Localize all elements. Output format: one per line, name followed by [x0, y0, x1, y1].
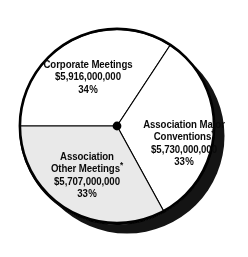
- slice-label-percent: 33%: [134, 155, 233, 167]
- slice-label-percent: 34%: [29, 83, 147, 95]
- slice-label-name-line1: Association: [33, 150, 142, 162]
- slice-label-percent: 33%: [33, 187, 142, 199]
- slice-label-name-line2: Other Meetings*: [33, 162, 142, 174]
- pie-center-dot: [113, 122, 122, 131]
- slice-label-value: $5,730,000,000: [134, 143, 233, 155]
- slice-label-name-line2: Conventions*: [134, 130, 233, 142]
- slice-label-association-major-conventions: Association Major Conventions* $5,730,00…: [134, 118, 233, 168]
- slice-label-value: $5,916,000,000: [29, 70, 147, 82]
- slice-label-association-other-meetings: Association Other Meetings* $5,707,000,0…: [33, 150, 142, 200]
- slice-label-corporate-meetings: Corporate Meetings $5,916,000,000 34%: [29, 58, 147, 95]
- slice-label-value: $5,707,000,000: [33, 175, 142, 187]
- footnote-asterisk: *: [211, 128, 214, 138]
- footnote-asterisk: *: [120, 160, 123, 170]
- slice-label-name: Corporate Meetings: [29, 58, 147, 70]
- slice-label-name-line1: Association Major: [134, 118, 233, 130]
- pie-chart-figure: Corporate Meetings $5,916,000,000 34% As…: [0, 0, 248, 257]
